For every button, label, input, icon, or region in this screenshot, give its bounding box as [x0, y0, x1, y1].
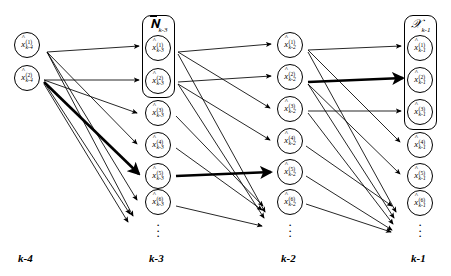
node-label: x(5)k-3: [152, 171, 163, 182]
node-k-2-6[interactable]: x(6)k-2: [277, 189, 303, 215]
edge-k-3.1-to-k-2.3: [178, 52, 270, 108]
node-label: x(2)k-4: [21, 73, 32, 84]
edge-k-4.1-to-k-3.below: [47, 52, 133, 216]
edge-k-2.5-to-k-1.below: [306, 176, 392, 230]
node-k-3-3[interactable]: x(3)k-3: [145, 100, 171, 126]
node-label: x(6)k-1: [414, 198, 425, 209]
node-k-4-1[interactable]: x(1)k-4: [14, 32, 40, 58]
vertical-ellipsis-k-1: ...: [414, 219, 426, 236]
node-k-1-4[interactable]: x(4)k-1: [407, 132, 433, 158]
group-label-k-3: 𝐍k-3: [142, 17, 175, 34]
node-label: x(2)k-2: [284, 72, 295, 83]
node-k-3-6[interactable]: x(6)k-3: [145, 189, 171, 215]
edge-k-4.1-to-k-3.1: [47, 46, 139, 52]
group-label-k-1: 𝒳k-1: [404, 17, 437, 34]
column-label-k-1: k-1: [411, 252, 426, 264]
vertical-ellipsis-k-2: ...: [284, 219, 296, 236]
node-k-2-2[interactable]: x(2)k-2: [277, 64, 303, 90]
edge-k-2.1-to-k-1.1: [308, 46, 401, 50]
edge-layer: [0, 0, 451, 276]
edge-k-3.4-to-k-2.below: [176, 148, 262, 210]
node-k-2-1[interactable]: x(1)k-2: [277, 32, 303, 58]
edge-k-4.2-to-k-3.below2: [44, 84, 128, 222]
vertical-ellipsis-k-3: ...: [152, 219, 164, 236]
node-label: x(1)k-4: [21, 40, 32, 51]
edge-k-3.1-to-k-2.1: [178, 44, 271, 52]
node-k-1-5[interactable]: x(5)k-1: [407, 163, 433, 189]
node-k-2-5[interactable]: x(5)k-2: [277, 159, 303, 185]
edge-k-4.1-to-k-3.6: [47, 52, 137, 200]
edge-k-4.2-to-k-3.5: [44, 82, 139, 174]
node-label: x(4)k-1: [414, 140, 425, 151]
node-label: x(4)k-2: [284, 136, 295, 147]
node-label: x(3)k-2: [284, 104, 295, 115]
node-label: x(5)k-2: [284, 167, 295, 178]
node-label: x(3)k-3: [152, 108, 163, 119]
node-k-2-3[interactable]: x(3)k-2: [277, 96, 303, 122]
column-label-k-4: k-4: [18, 252, 33, 264]
node-k-4-2[interactable]: x(2)k-4: [14, 65, 40, 91]
edge-k-2.1-to-k-1.below: [308, 52, 396, 212]
edge-k-2.2-to-k-1.5: [308, 84, 400, 174]
edge-k-4.2-to-k-3.below: [44, 82, 130, 214]
edge-k-3.6-to-k-2.below: [176, 206, 262, 226]
column-label-k-2: k-2: [281, 252, 296, 264]
trellis-diagram: x(1)k-4x(2)k-4x(1)k-3x(2)k-3x(3)k-3x(4)k…: [0, 0, 451, 276]
edge-k-3.2-to-k-2.below: [178, 84, 264, 218]
node-label: x(6)k-3: [152, 197, 163, 208]
node-k-3-5[interactable]: x(5)k-3: [145, 163, 171, 189]
node-k-3-4[interactable]: x(4)k-3: [145, 132, 171, 158]
node-k-2-4[interactable]: x(4)k-2: [277, 128, 303, 154]
edge-k-3.1-to-k-2.below: [178, 54, 265, 212]
node-label: x(4)k-3: [152, 140, 163, 151]
edge-k-3.2-to-k-2.4: [178, 84, 270, 140]
column-label-k-3: k-3: [149, 252, 164, 264]
node-k-1-6[interactable]: x(6)k-1: [407, 190, 433, 216]
edge-k-2.6-to-k-1.below: [306, 204, 391, 232]
node-label: x(5)k-1: [414, 171, 425, 182]
edge-k-2.1-to-k-1.4: [308, 50, 400, 142]
node-label: x(1)k-2: [284, 40, 295, 51]
node-label: x(6)k-2: [284, 197, 295, 208]
edge-k-2.4-to-k-1.below: [306, 146, 392, 206]
edge-k-3.5-to-k-2.5: [176, 172, 271, 176]
